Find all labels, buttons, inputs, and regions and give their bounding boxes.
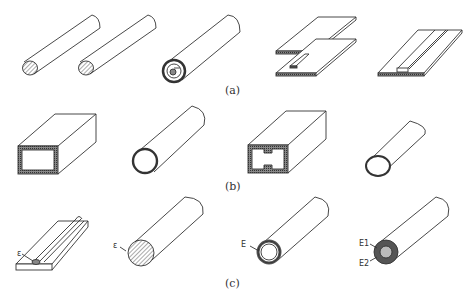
- layered-cylinder: [370, 197, 449, 264]
- row-label-a: (a): [225, 84, 240, 97]
- hollow-tube: [250, 197, 329, 263]
- solid-cylinder: [120, 197, 203, 266]
- row-label-b: (b): [225, 180, 241, 193]
- epsilon-label-plate: ε: [17, 249, 21, 258]
- round-tube: [133, 106, 205, 173]
- thin-round-tube: [366, 121, 425, 176]
- row-label-c: (c): [225, 277, 240, 290]
- coaxial-rod: [163, 15, 240, 82]
- e2-label: E2: [359, 259, 369, 268]
- stacked-plates-with-strip: [276, 17, 356, 76]
- plate-with-embedded-strip: [378, 30, 462, 76]
- rectangular-tube-with-ridges: [248, 111, 326, 173]
- e1-label: E1: [359, 239, 369, 248]
- rectangular-tube: [18, 114, 96, 174]
- solid-rod-2: [79, 15, 157, 75]
- figure-canvas: ε ε E E1 E2: [0, 0, 472, 296]
- plate-with-groove: [16, 217, 88, 271]
- epsilon-label-cylinder: ε: [113, 241, 117, 250]
- e-label-tube: E: [241, 240, 246, 249]
